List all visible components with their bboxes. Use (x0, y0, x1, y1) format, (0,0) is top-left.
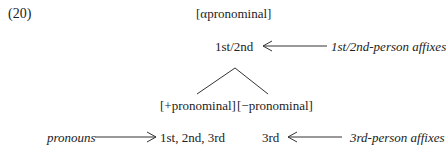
right-branch-line (235, 68, 268, 94)
arrow-right-icon-bottom (95, 132, 156, 142)
label-1st-2nd-affixes: 1st/2nd-person affixes (331, 40, 446, 53)
arrow-left-icon-top (263, 41, 327, 51)
root-feature: [αpronominal] (196, 7, 271, 20)
node-all-persons: 1st, 2nd, 3rd (160, 131, 225, 144)
label-pronouns: pronouns (47, 131, 96, 144)
label-3rd-affixes: 3rd-person affixes (350, 131, 444, 144)
example-number: (20) (8, 7, 31, 21)
node-1st-2nd: 1st/2nd (215, 40, 253, 53)
left-branch-line (197, 68, 235, 94)
arrow-left-icon-bottom (288, 132, 342, 142)
branch-plus-pronominal: [+pronominal] (160, 99, 236, 112)
node-3rd: 3rd (262, 131, 279, 144)
branch-minus-pronominal: [−pronominal] (237, 99, 313, 112)
